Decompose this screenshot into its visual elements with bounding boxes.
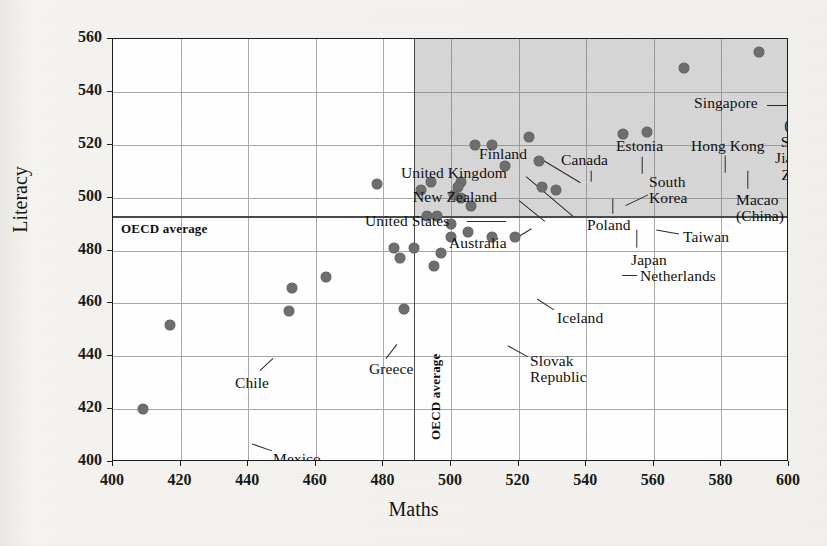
x-axis-tick — [382, 461, 383, 466]
label-greece: Greece — [369, 361, 413, 377]
label-canada: Canada — [561, 152, 608, 168]
y-axis-tick-label: 440 — [46, 345, 102, 363]
data-point-south-korea — [534, 156, 544, 166]
label-united-kingdom: United Kingdom — [401, 165, 507, 181]
label-finland: Finland — [479, 146, 527, 162]
label-mexico: Mexico — [273, 451, 321, 461]
data-point-greece — [284, 306, 294, 316]
data-point-iceland — [429, 261, 439, 271]
data-point — [287, 283, 297, 293]
x-axis-tick-label: 460 — [285, 471, 345, 489]
y-axis-tick — [107, 355, 112, 356]
label-japan-leader-line — [636, 230, 637, 248]
oecd-average-literacy — [113, 216, 787, 218]
y-axis-tick-label: 500 — [46, 187, 102, 205]
label-netherlands: Netherlands — [640, 268, 716, 284]
oecd-average-vertical-label: OECD average — [428, 353, 444, 440]
x-axis-tick-label: 560 — [623, 471, 683, 489]
data-point-taiwan — [551, 185, 561, 195]
y-axis-tick-label: 460 — [46, 292, 102, 310]
data-point — [395, 253, 405, 263]
data-point-chile — [165, 320, 175, 330]
x-axis-tick — [585, 461, 586, 466]
y-axis-tick-label: 540 — [46, 81, 102, 99]
data-point-estonia — [524, 132, 534, 142]
gridline-horizontal — [113, 303, 787, 304]
gridline-vertical — [316, 39, 317, 460]
x-axis-tick-label: 600 — [758, 471, 818, 489]
x-axis-tick — [315, 461, 316, 466]
label-south-korea: South Korea — [649, 174, 687, 207]
label-new-zealand: New Zealand — [413, 189, 497, 205]
x-axis-tick — [788, 461, 789, 466]
y-axis-title: Literacy — [9, 120, 32, 280]
x-axis-tick-label: 400 — [82, 471, 142, 489]
x-axis-tick — [247, 461, 248, 466]
x-axis-tick — [720, 461, 721, 466]
x-axis-tick — [653, 461, 654, 466]
y-axis-tick-label: 420 — [46, 398, 102, 416]
x-axis-tick-label: 420 — [150, 471, 210, 489]
y-axis-tick — [107, 461, 112, 462]
gridline-vertical — [383, 39, 384, 460]
gridline-horizontal — [113, 356, 787, 357]
label-estonia: Estonia — [616, 138, 663, 154]
gridline-vertical — [248, 39, 249, 460]
x-axis-tick — [112, 461, 113, 466]
x-axis-tick — [180, 461, 181, 466]
label-poland: Poland — [587, 217, 631, 233]
data-point — [321, 272, 331, 282]
label-australia: Australia — [449, 235, 507, 251]
y-axis-tick-label: 400 — [46, 451, 102, 469]
x-axis-tick-label: 480 — [352, 471, 412, 489]
gridline-horizontal — [113, 409, 787, 410]
y-axis-tick — [107, 408, 112, 409]
label-iceland: Iceland — [557, 310, 603, 326]
data-point-mexico — [138, 404, 148, 414]
data-point — [409, 243, 419, 253]
data-point-macao-china — [642, 127, 652, 137]
y-axis-tick — [107, 91, 112, 92]
data-point — [389, 243, 399, 253]
x-axis-tick-label: 440 — [217, 471, 277, 489]
label-taiwan: Taiwan — [683, 229, 729, 245]
x-axis-tick — [450, 461, 451, 466]
data-point-china-beijing-shanghai-jiangsu-and-zhejiang — [754, 47, 764, 57]
data-point-slovak-republic — [399, 304, 409, 314]
label-united-states: United States — [365, 213, 449, 229]
data-point-united-states — [372, 179, 382, 189]
label-hong-kong-leader-line — [724, 156, 725, 173]
x-axis-tick-label: 580 — [690, 471, 750, 489]
x-axis-title: Maths — [0, 498, 827, 521]
y-axis-tick — [107, 302, 112, 303]
label-macao-leader-line — [747, 171, 748, 189]
label-taiwan-leader-line — [656, 229, 679, 234]
oecd-average-horizontal-label: OECD average — [121, 221, 208, 237]
label-hong-kong: Hong Kong — [691, 138, 765, 154]
label-poland-leader-line — [612, 199, 613, 214]
x-axis-tick-label: 520 — [488, 471, 548, 489]
chart-figure: China (Beijing, Shanghai, Jiangsu and Zh… — [0, 0, 827, 546]
y-axis-tick-label: 480 — [46, 240, 102, 258]
y-axis-tick-label: 560 — [46, 28, 102, 46]
label-slovak-republic: Slovak Republic — [530, 353, 587, 386]
y-axis-tick — [107, 38, 112, 39]
label-netherlands-leader-line — [622, 275, 637, 276]
plot-area: China (Beijing, Shanghai, Jiangsu and Zh… — [112, 38, 788, 461]
label-chile: Chile — [235, 375, 269, 391]
label-mexico-leader-line — [252, 443, 272, 451]
y-axis-tick — [107, 250, 112, 251]
label-united-states-leader-line — [467, 221, 506, 222]
label-singapore: Singapore — [694, 95, 758, 111]
y-axis-tick — [107, 144, 112, 145]
label-canada-leader-line — [590, 171, 591, 182]
x-axis-tick-label: 500 — [420, 471, 480, 489]
gridline-vertical — [181, 39, 182, 460]
data-point — [436, 248, 446, 258]
x-axis-tick-label: 540 — [555, 471, 615, 489]
y-axis-tick-label: 520 — [46, 134, 102, 152]
label-japan: Japan — [631, 252, 667, 268]
x-axis-tick — [518, 461, 519, 466]
y-axis-tick — [107, 197, 112, 198]
label-macao: Macao (China) — [736, 192, 784, 225]
